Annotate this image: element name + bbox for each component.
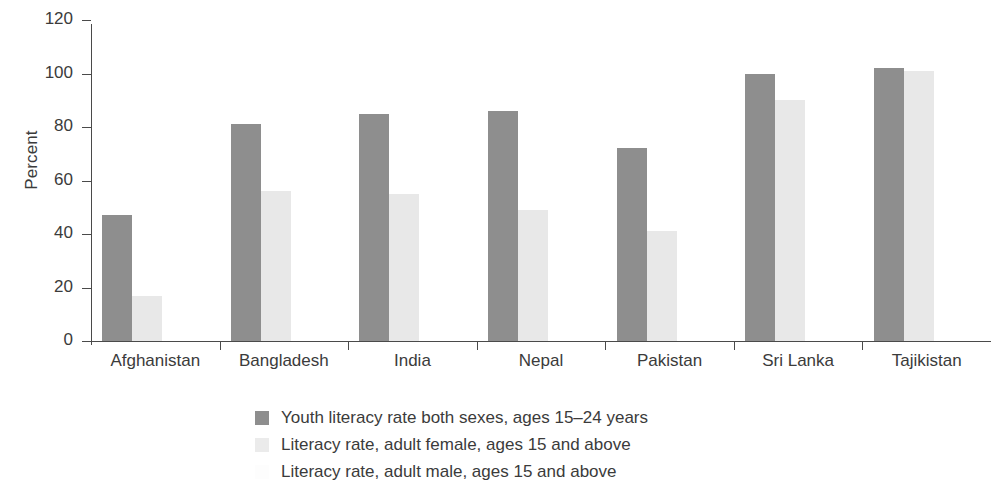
legend-label-female: Literacy rate, adult female, ages 15 and… (281, 435, 631, 455)
bar (102, 215, 132, 341)
legend-swatch-female (255, 438, 269, 452)
bar (617, 148, 647, 341)
bar-group (231, 20, 321, 341)
x-category-label: Bangladesh (220, 351, 349, 371)
plot-area: 020406080100120 AfghanistanBangladeshInd… (91, 20, 991, 345)
x-tick (605, 341, 606, 350)
x-axis-line (91, 341, 991, 342)
x-category-label: India (348, 351, 477, 371)
bar (359, 114, 389, 341)
y-axis-title: Percent (22, 100, 42, 220)
bar (775, 100, 805, 341)
x-category-label: Afghanistan (91, 351, 220, 371)
legend-item: Youth literacy rate both sexes, ages 15–… (255, 404, 875, 431)
bar (904, 71, 934, 341)
y-tick: 20 (82, 288, 91, 289)
y-tick: 100 (82, 74, 91, 75)
y-tick-label: 40 (54, 223, 73, 243)
bar (518, 210, 548, 341)
x-category-label: Pakistan (605, 351, 734, 371)
bar (261, 191, 291, 341)
x-tick (477, 341, 478, 350)
bar (874, 68, 904, 341)
bar-group (874, 20, 964, 341)
y-tick: 80 (82, 127, 91, 128)
bar (745, 74, 775, 342)
bar (389, 194, 419, 341)
bar-group (359, 20, 449, 341)
legend-swatch-male (255, 465, 269, 479)
y-tick-label: 100 (45, 63, 73, 83)
x-tick (220, 341, 221, 350)
bar-group (745, 20, 835, 341)
legend-label-youth: Youth literacy rate both sexes, ages 15–… (281, 408, 648, 428)
bar-group (617, 20, 707, 341)
bar (132, 296, 162, 341)
chart-legend: Youth literacy rate both sexes, ages 15–… (255, 404, 875, 485)
x-category-label: Sri Lanka (734, 351, 863, 371)
y-tick-label: 120 (45, 9, 73, 29)
y-tick: 0 (82, 341, 91, 342)
legend-item: Literacy rate, adult female, ages 15 and… (255, 431, 875, 458)
bar-chart: Percent 020406080100120 AfghanistanBangl… (0, 0, 998, 489)
bar (647, 231, 677, 341)
bar (488, 111, 518, 341)
y-tick-label: 60 (54, 170, 73, 190)
legend-item: Literacy rate, adult male, ages 15 and a… (255, 458, 875, 485)
y-tick-label: 0 (64, 330, 73, 350)
y-tick-label: 20 (54, 277, 73, 297)
bar (231, 124, 261, 341)
bar-group (488, 20, 578, 341)
y-tick: 40 (82, 234, 91, 235)
y-tick: 120 (82, 20, 91, 21)
y-axis-line (91, 24, 92, 345)
y-tick-label: 80 (54, 116, 73, 136)
legend-swatch-youth (255, 411, 269, 425)
y-tick: 60 (82, 181, 91, 182)
x-tick (734, 341, 735, 350)
bar-group (102, 20, 192, 341)
x-category-label: Nepal (477, 351, 606, 371)
x-tick (862, 341, 863, 350)
x-category-label: Tajikistan (862, 351, 991, 371)
legend-label-male: Literacy rate, adult male, ages 15 and a… (281, 462, 617, 482)
x-tick (348, 341, 349, 350)
